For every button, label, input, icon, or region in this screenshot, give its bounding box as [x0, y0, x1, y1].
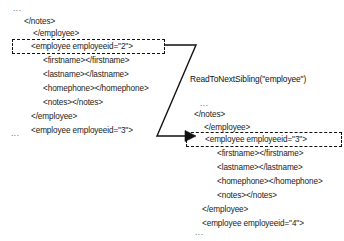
arrow-path — [157, 45, 196, 136]
before-code-line-1: </employee> — [33, 29, 79, 39]
before-code-line-0: </notes> — [24, 17, 55, 27]
after-code-line-6: <notes></notes> — [217, 191, 277, 201]
before-code-line-7: </employee> — [31, 112, 77, 122]
after-code-line-0: </notes> — [194, 110, 225, 120]
after-code-line-7: </employee> — [202, 205, 248, 215]
before-code-line-3: <firstname></firstname> — [43, 56, 129, 66]
after-code-line-5: <homephone></homephone> — [217, 177, 323, 187]
operation-label: ReadToNextSibling("employee") — [190, 74, 306, 84]
before-code-line-2: <employee employeeid="2"> — [31, 42, 133, 52]
before-code-line-5: <homephone></homephone> — [43, 84, 149, 94]
before-code-line-6: <notes></notes> — [43, 98, 103, 108]
after-bottom-ellipsis: ... — [195, 228, 203, 237]
after-code-line-4: <lastname></lastname> — [217, 163, 303, 173]
diagram-canvas: ... </notes> </employee> <employee emplo… — [0, 0, 344, 241]
after-top-ellipsis: ... — [200, 99, 208, 108]
after-code-line-3: <firstname></firstname> — [217, 149, 303, 159]
before-top-ellipsis: ... — [13, 4, 21, 13]
before-bottom-ellipsis: ... — [11, 129, 19, 138]
after-code-line-2: <employee employeeid="3"> — [205, 135, 307, 145]
after-code-line-8: <employee employeeid="4"> — [202, 219, 304, 229]
before-code-line-4: <lastname></lastname> — [43, 70, 129, 80]
before-code-line-8: <employee employeeid="3"> — [31, 126, 133, 136]
